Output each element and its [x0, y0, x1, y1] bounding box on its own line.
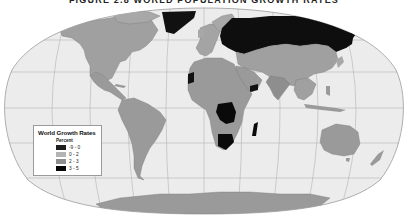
legend-item: -9 - 0 [56, 144, 97, 151]
legend-swatch [56, 159, 66, 164]
legend-label: -9 - 0 [69, 145, 80, 150]
world-map [0, 0, 408, 216]
legend-label: 0 - 2 [69, 152, 79, 157]
legend-title: World Growth Rates [38, 129, 97, 136]
map-legend: World Growth Rates Percent -9 - 0 0 - 2 … [33, 125, 102, 176]
legend-subtitle: Percent [56, 138, 97, 143]
legend-swatch [56, 152, 66, 157]
west-africa-dark [188, 72, 194, 84]
legend-item: 2 - 3 [56, 158, 97, 165]
legend-item: 3 - 5 [56, 165, 97, 172]
alaska-marker [60, 25, 66, 29]
australia [320, 124, 360, 156]
legend-item: 0 - 2 [56, 151, 97, 158]
legend-label: 2 - 3 [69, 159, 79, 164]
legend-swatch [56, 145, 66, 150]
legend-swatch [56, 166, 66, 171]
legend-label: 3 - 5 [69, 166, 79, 171]
